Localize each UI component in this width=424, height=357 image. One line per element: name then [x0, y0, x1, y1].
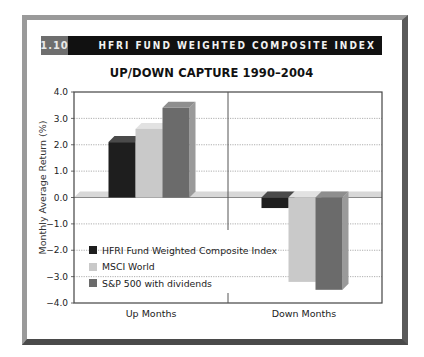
bar	[109, 142, 136, 197]
y-tick-label: −4.0	[46, 298, 68, 308]
y-tick-label: −1.0	[46, 219, 68, 229]
bar	[136, 129, 163, 198]
legend-item: HFRI Fund Weighted Composite Index	[89, 242, 277, 259]
legend-swatch-msci	[89, 263, 97, 271]
y-tick-label: 3.0	[54, 114, 69, 124]
y-axis-label: Monthly Average Return (%)	[37, 120, 48, 254]
chart-legend: HFRI Fund Weighted Composite Index MSCI …	[89, 242, 277, 292]
bar-side	[190, 102, 196, 198]
legend-swatch-hfri	[89, 246, 97, 254]
bar	[289, 198, 316, 282]
y-tick-label: −3.0	[46, 272, 68, 282]
legend-item: MSCI World	[89, 259, 277, 276]
bar	[262, 198, 289, 209]
x-category-label: Down Months	[272, 308, 337, 319]
bar	[316, 198, 343, 290]
legend-label: HFRI Fund Weighted Composite Index	[102, 245, 277, 256]
legend-label: S&P 500 with dividends	[102, 278, 212, 289]
y-tick-label: 4.0	[54, 87, 69, 97]
y-tick-label: 2.0	[54, 140, 69, 150]
y-tick-label: −2.0	[46, 245, 68, 255]
y-tick-label: 0.0	[54, 193, 69, 203]
bar-chart: 4.03.02.01.00.0−1.0−2.0−3.0−4.0Up Months…	[0, 0, 424, 357]
legend-label: MSCI World	[102, 261, 155, 272]
legend-swatch-sp500	[89, 279, 97, 287]
x-category-label: Up Months	[126, 308, 177, 319]
y-tick-label: 1.0	[54, 166, 69, 176]
legend-item: S&P 500 with dividends	[89, 275, 277, 292]
bar	[163, 108, 190, 198]
bar-side	[343, 192, 349, 290]
